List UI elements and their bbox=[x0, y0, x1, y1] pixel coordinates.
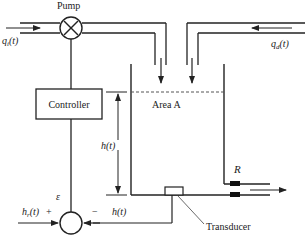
resistance-valve-icon bbox=[230, 181, 240, 197]
transducer-leader bbox=[178, 196, 204, 224]
tank bbox=[131, 64, 270, 195]
feedback-path bbox=[93, 195, 172, 223]
pump-icon bbox=[60, 17, 82, 39]
minus-sign: − bbox=[92, 206, 98, 217]
feedback-label: h(t) bbox=[112, 206, 127, 218]
summing-junction-icon bbox=[60, 212, 82, 234]
error-label: ε bbox=[56, 191, 60, 202]
pump-label: Pump bbox=[57, 0, 80, 11]
resistance-label: R bbox=[233, 163, 241, 175]
plus-sign: + bbox=[46, 206, 52, 217]
transducer-label: Transducer bbox=[206, 221, 251, 232]
level-label: h(t) bbox=[101, 140, 116, 152]
controller-label: Controller bbox=[48, 99, 90, 110]
disturbance-label: qd(t) bbox=[271, 38, 290, 51]
inflow-pipe bbox=[20, 23, 166, 65]
area-label: Area A bbox=[152, 99, 181, 110]
transducer-icon bbox=[165, 187, 183, 195]
reference-label: hr(t) bbox=[22, 206, 40, 219]
liquid-level-control-diagram: qi(t) Pump qd(t) Area A h(t) R bbox=[0, 0, 305, 241]
inflow-label: qi(t) bbox=[2, 35, 19, 48]
